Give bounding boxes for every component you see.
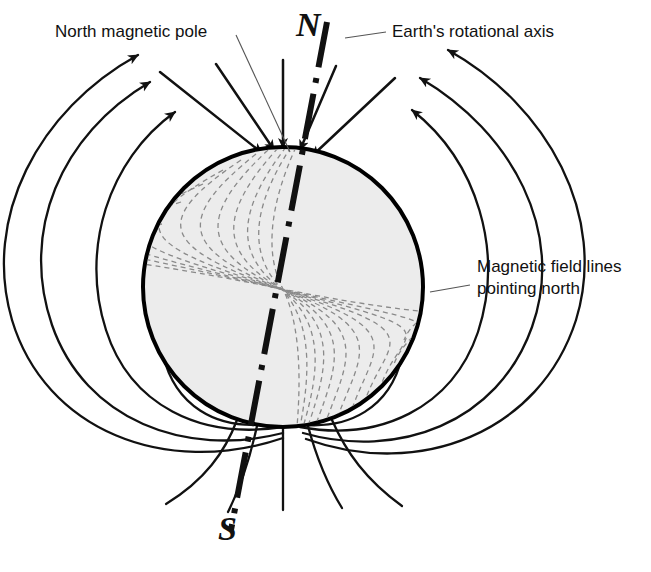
label-earth-rotational-axis: Earth's rotational axis — [392, 21, 554, 43]
field-lines-north-converging — [160, 60, 395, 156]
magnetic-field-diagram: North magnetic pole Earth's rotational a… — [0, 0, 651, 572]
earth-globe — [143, 147, 423, 427]
field-lines-south-radiating — [166, 420, 402, 512]
south-pole-marker: S — [218, 510, 237, 548]
label-magnetic-field-lines: Magnetic field lines pointing north — [477, 256, 651, 300]
label-north-magnetic-pole: North magnetic pole — [55, 21, 207, 43]
leader-rotational-axis — [345, 32, 386, 38]
north-pole-marker: N — [296, 6, 321, 44]
leader-field-lines — [430, 285, 470, 292]
